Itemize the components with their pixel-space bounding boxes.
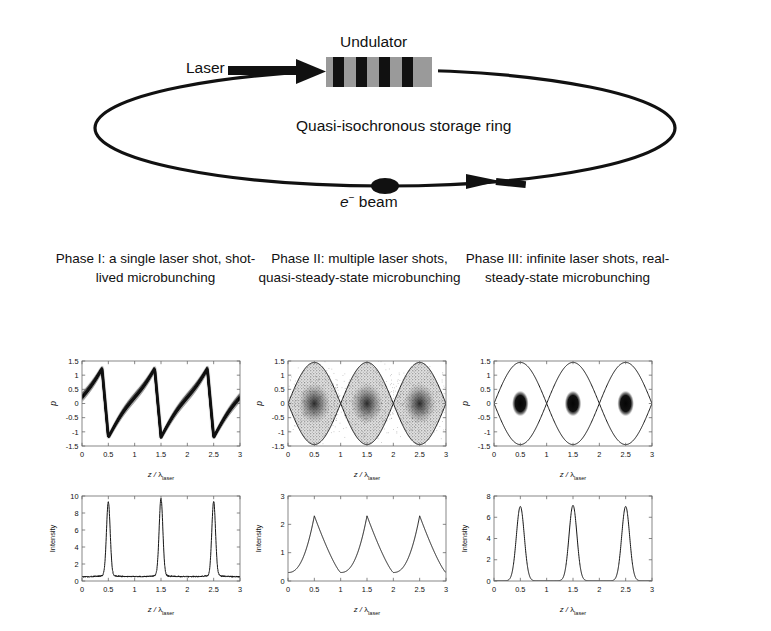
y-axis-label: p bbox=[460, 401, 470, 407]
y-tick-label: 1 bbox=[280, 371, 284, 380]
y-tick-label: 1 bbox=[74, 371, 78, 380]
undulator-label: Undulator bbox=[340, 33, 407, 51]
x-tick-label: 0.5 bbox=[103, 450, 113, 459]
storage-ring-schematic: Undulator Laser Quasi-isochronous storag… bbox=[0, 0, 771, 232]
x-axis-label: z / λlaser bbox=[147, 470, 175, 481]
x-tick-label: 1.5 bbox=[362, 450, 372, 459]
ebeam-rest: beam bbox=[354, 193, 397, 210]
phase2-intensity-axes: 00.511.522.530123z / λlaserIntensity bbox=[254, 492, 448, 616]
y-tick-label: 0 bbox=[280, 577, 284, 586]
beam-direction-arrow bbox=[466, 174, 526, 189]
y-tick-label: -0.5 bbox=[66, 413, 79, 422]
phase3-phasespace-svg: 00.511.522.53-1.5-1-0.500.511.5z / λlase… bbox=[456, 352, 661, 482]
x-tick-label: 3 bbox=[238, 450, 242, 459]
y-tick-label: 4 bbox=[486, 534, 490, 543]
plot-phase1-intensity: 00.511.522.530246810z / λlaserIntensity bbox=[44, 487, 249, 617]
y-tick-label: -0.5 bbox=[272, 413, 285, 422]
x-axis-label: z / λlaser bbox=[559, 605, 587, 616]
x-tick-label: 2 bbox=[391, 450, 395, 459]
y-tick-label: -0.5 bbox=[478, 413, 491, 422]
y-axis-label: Intensity bbox=[460, 524, 469, 552]
x-tick-label: 1.5 bbox=[568, 450, 578, 459]
x-axis-label: z / λlaser bbox=[353, 470, 381, 481]
phase3-phasespace-axes: 00.511.522.53-1.5-1-0.500.511.5z / λlase… bbox=[460, 357, 654, 481]
y-tick-label: 0.5 bbox=[274, 385, 284, 394]
laser-arrow bbox=[228, 59, 326, 84]
microbunch-blob bbox=[565, 390, 582, 416]
x-tick-label: 1.5 bbox=[362, 585, 372, 594]
y-tick-label: 0.5 bbox=[480, 385, 490, 394]
x-tick-label: 3 bbox=[238, 585, 242, 594]
x-tick-label: 1 bbox=[339, 585, 343, 594]
x-tick-label: 2.5 bbox=[621, 585, 631, 594]
x-tick-label: 2 bbox=[185, 450, 189, 459]
y-tick-label: -1 bbox=[278, 428, 285, 437]
x-tick-label: 2 bbox=[185, 585, 189, 594]
caption-phase-1: Phase I: a single laser shot, shot-lived… bbox=[48, 250, 263, 287]
y-tick-label: 6 bbox=[74, 526, 78, 535]
y-tick-label: 8 bbox=[74, 509, 78, 518]
x-tick-label: 1 bbox=[545, 450, 549, 459]
y-axis-label: p bbox=[254, 401, 264, 407]
x-tick-label: 2.5 bbox=[415, 585, 425, 594]
plot-phase3-intensity: 00.511.522.5302468z / λlaserIntensity bbox=[456, 487, 661, 617]
phase2-phasespace-data-layer bbox=[288, 352, 447, 455]
sawtooth-filament bbox=[80, 366, 242, 440]
y-tick-label: 0 bbox=[280, 399, 284, 408]
phase2-intensity-data-layer bbox=[288, 516, 446, 573]
x-tick-label: 1 bbox=[339, 450, 343, 459]
x-tick-label: 3 bbox=[650, 450, 654, 459]
x-tick-label: 0 bbox=[492, 450, 496, 459]
x-tick-label: 1.5 bbox=[568, 585, 578, 594]
y-axis-label: Intensity bbox=[48, 524, 57, 552]
x-axis-label: z / λlaser bbox=[559, 470, 587, 481]
y-tick-label: 1 bbox=[280, 548, 284, 557]
x-tick-label: 3 bbox=[444, 450, 448, 459]
x-tick-label: 1.5 bbox=[156, 585, 166, 594]
caption-phase-3: Phase III: infinite laser shots, real-st… bbox=[460, 250, 675, 287]
caption-phase-2: Phase II: multiple laser shots, quasi-st… bbox=[252, 250, 467, 287]
y-tick-label: 1 bbox=[486, 371, 490, 380]
y-tick-label: 1.5 bbox=[480, 357, 490, 366]
x-tick-label: 2 bbox=[597, 450, 601, 459]
x-tick-label: 1.5 bbox=[156, 450, 166, 459]
x-tick-label: 0 bbox=[286, 585, 290, 594]
phase1-phasespace-data-layer bbox=[80, 366, 242, 440]
microbunch-blob bbox=[512, 390, 529, 416]
y-tick-label: -1.5 bbox=[66, 442, 79, 451]
x-tick-label: 0.5 bbox=[309, 585, 319, 594]
x-tick-label: 0 bbox=[492, 585, 496, 594]
storage-ring-label: Quasi-isochronous storage ring bbox=[296, 117, 511, 135]
y-tick-label: -1.5 bbox=[272, 442, 285, 451]
y-tick-label: 0 bbox=[74, 577, 78, 586]
x-tick-label: 0 bbox=[80, 585, 84, 594]
y-axis-label: p bbox=[48, 401, 58, 407]
phase1-intensity-curve bbox=[82, 498, 240, 577]
x-axis-label: z / λlaser bbox=[353, 605, 381, 616]
x-tick-label: 2.5 bbox=[621, 450, 631, 459]
x-tick-label: 2.5 bbox=[209, 450, 219, 459]
x-tick-label: 3 bbox=[444, 585, 448, 594]
x-tick-label: 2 bbox=[391, 585, 395, 594]
x-tick-label: 0.5 bbox=[309, 450, 319, 459]
y-tick-label: 8 bbox=[486, 492, 490, 501]
y-axis-label: Intensity bbox=[254, 524, 263, 552]
laser-label: Laser bbox=[186, 59, 225, 77]
microbunch-blob bbox=[617, 390, 634, 416]
x-tick-label: 0.5 bbox=[515, 450, 525, 459]
x-tick-label: 2.5 bbox=[209, 585, 219, 594]
phase1-phasespace-svg: 00.511.522.53-1.5-1-0.500.511.5z / λlase… bbox=[44, 352, 249, 482]
ebeam-e: e bbox=[340, 193, 349, 210]
x-tick-label: 0.5 bbox=[103, 585, 113, 594]
x-tick-label: 3 bbox=[650, 585, 654, 594]
phase3-intensity-data-layer bbox=[494, 505, 652, 580]
x-tick-label: 0.5 bbox=[515, 585, 525, 594]
y-tick-label: 2 bbox=[280, 520, 284, 529]
figure-root: Undulator Laser Quasi-isochronous storag… bbox=[0, 0, 771, 631]
x-tick-label: 1 bbox=[133, 585, 137, 594]
y-tick-label: 2 bbox=[486, 555, 490, 564]
phase-captions: Phase I: a single laser shot, shot-lived… bbox=[0, 250, 771, 335]
x-tick-label: 2 bbox=[597, 585, 601, 594]
x-tick-label: 1 bbox=[545, 585, 549, 594]
phase3-intensity-axes: 00.511.522.5302468z / λlaserIntensity bbox=[460, 492, 654, 616]
